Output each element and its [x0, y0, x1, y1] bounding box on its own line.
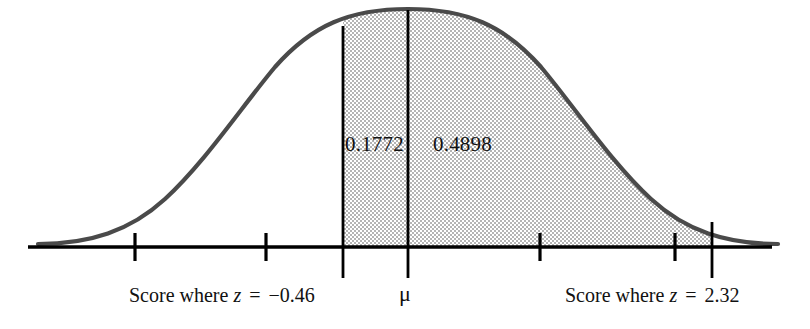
caption-right-prefix: Score where	[565, 284, 664, 306]
caption-score-z-2-32: Score where z = 2.32	[565, 285, 739, 305]
caption-right-variable: z	[669, 284, 677, 306]
area-label-left: 0.1772	[345, 134, 404, 155]
caption-left-variable: z	[233, 284, 241, 306]
caption-left-equals: =	[246, 284, 263, 306]
caption-left-value: −0.46	[268, 284, 314, 306]
caption-right-equals: =	[682, 284, 699, 306]
caption-mean-symbol: μ	[399, 283, 411, 305]
caption-left-prefix: Score where	[129, 284, 228, 306]
caption-score-z-negative-0-46: Score where z = −0.46	[129, 285, 315, 305]
normal-curve-graphic	[0, 0, 810, 329]
normal-distribution-figure: 0.1772 0.4898 Score where z = −0.46 μ Sc…	[0, 0, 810, 329]
area-label-right: 0.4898	[433, 134, 492, 155]
caption-right-value: 2.32	[704, 284, 739, 306]
